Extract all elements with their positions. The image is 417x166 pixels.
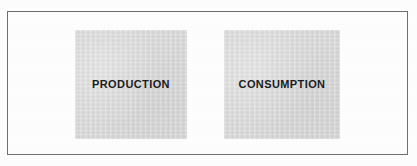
node-label-production: PRODUCTION bbox=[92, 79, 170, 90]
scanned-page-canvas: PRODUCTION CONSUMPTION bbox=[0, 0, 417, 166]
node-label-consumption: CONSUMPTION bbox=[239, 79, 326, 90]
diagram-nodes-container: PRODUCTION CONSUMPTION bbox=[0, 0, 417, 166]
node-box-consumption[interactable]: CONSUMPTION bbox=[224, 30, 340, 139]
node-box-production[interactable]: PRODUCTION bbox=[75, 30, 187, 139]
